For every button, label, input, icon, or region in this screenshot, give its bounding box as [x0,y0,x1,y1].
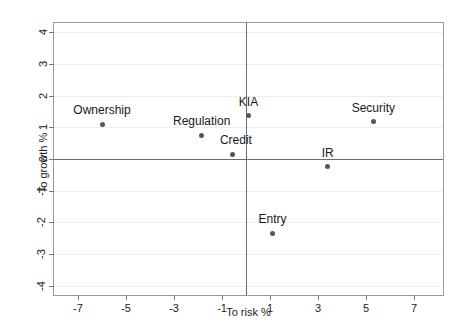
y-axis-tick-label: -4 [35,281,47,291]
gridline-horizontal [54,254,443,255]
data-point[interactable] [199,133,204,138]
y-axis-tick-label: -3 [35,249,47,259]
data-point-label: KIA [239,95,258,109]
zero-line-vertical [246,23,247,295]
gridline-horizontal [54,64,443,65]
x-axis-tick [126,295,127,300]
data-point-label: Credit [220,133,252,147]
y-axis-tick-label: 4 [37,29,49,35]
gridline-horizontal [54,286,443,287]
data-point-label: Regulation [173,114,230,128]
data-point-label: Ownership [73,103,130,117]
data-point[interactable] [230,152,235,157]
scatter-plot-figure: 43210-1-2-3-4-7-5-3-11357OwnershipRegula… [0,0,463,325]
y-axis-tick-label: 3 [37,61,49,67]
data-point[interactable] [325,164,330,169]
x-axis-tick [414,295,415,300]
y-axis-tick-label: 2 [37,93,49,99]
y-axis-tick-label: 1 [37,124,49,130]
data-point[interactable] [371,119,376,124]
y-axis-tick [49,222,54,223]
x-axis-title: To risk % [53,306,444,318]
gridline-horizontal [54,127,443,128]
data-point[interactable] [270,231,275,236]
x-axis-tick [270,295,271,300]
y-axis-title: To growth % [37,132,49,193]
data-point-label: Security [352,101,395,115]
x-axis-tick [174,295,175,300]
gridline-horizontal [54,191,443,192]
y-axis-tick-label: -2 [35,217,47,227]
y-axis-tick [49,96,54,97]
y-axis-tick [49,191,54,192]
plot-area: 43210-1-2-3-4-7-5-3-11357OwnershipRegula… [53,22,444,296]
data-point-label: IR [322,146,334,160]
gridline-horizontal [54,222,443,223]
gridline-horizontal [54,32,443,33]
y-axis-tick [49,64,54,65]
y-axis-tick [49,254,54,255]
zero-line-horizontal [54,159,443,160]
x-axis-tick [78,295,79,300]
data-point[interactable] [100,122,105,127]
y-axis-tick [49,32,54,33]
x-axis-tick [318,295,319,300]
x-axis-tick [366,295,367,300]
data-point-label: Entry [258,212,286,226]
y-axis-tick [49,286,54,287]
x-axis-tick [222,295,223,300]
data-point[interactable] [246,113,251,118]
y-axis-tick [49,127,54,128]
